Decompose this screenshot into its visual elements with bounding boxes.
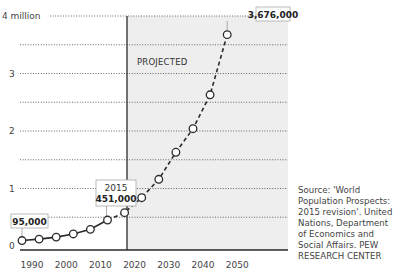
data-point-marker <box>172 148 180 156</box>
y-tick-label: 2 <box>9 126 15 136</box>
data-point-marker <box>35 235 43 243</box>
data-point-marker <box>104 216 112 224</box>
y-tick-label: 3 <box>9 69 15 79</box>
x-tick-label: 2020 <box>123 260 146 270</box>
x-tick-label: 2040 <box>192 260 215 270</box>
projected-region <box>127 16 288 250</box>
data-point-marker <box>121 209 129 217</box>
y-tick-label: 1 <box>9 184 15 194</box>
data-point-marker <box>206 91 214 99</box>
y-tick-label: 4 million <box>2 11 41 21</box>
data-point-marker <box>138 194 146 202</box>
callout-2050-value: 3,676,000 <box>248 10 299 20</box>
projected-label: PROJECTED <box>137 57 188 67</box>
callout-2015-value: 451,000 <box>96 194 137 204</box>
data-point-marker <box>155 176 163 184</box>
data-point-marker <box>70 230 78 238</box>
data-point-marker <box>18 237 26 245</box>
x-tick-label: 1990 <box>21 260 44 270</box>
callout-2015-year: 2015 <box>105 183 128 193</box>
data-point-marker <box>87 226 95 234</box>
x-tick-label: 2050 <box>226 260 249 270</box>
data-point-marker <box>52 233 60 241</box>
y-tick-label: 0 <box>9 241 15 251</box>
x-axis-labels: 1990200020102020203020402050 <box>21 260 249 270</box>
source-note: Source: 'World Population Prospects: 201… <box>298 185 398 262</box>
callout-1990-value: 95,000 <box>12 217 47 227</box>
x-tick-label: 2000 <box>55 260 78 270</box>
x-tick-label: 2010 <box>89 260 112 270</box>
x-tick-label: 2030 <box>157 260 180 270</box>
data-point-marker <box>189 125 197 133</box>
data-point-marker <box>223 31 231 39</box>
